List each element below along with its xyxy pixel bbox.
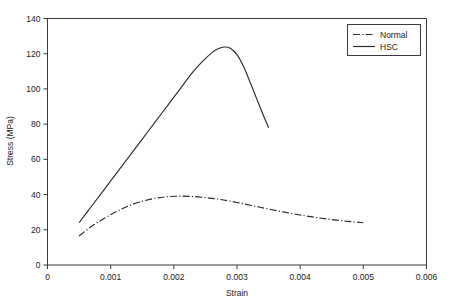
x-axis-title: Strain (226, 288, 248, 298)
x-tick-label: 0.005 (353, 272, 375, 282)
y-tick-label: 140 (26, 14, 40, 24)
chart-legend: Normal HSC (348, 25, 421, 56)
stress-strain-chart: 020406080100120140 00.0010.0020.0030.004… (0, 0, 451, 306)
x-tick-label: 0.003 (226, 272, 248, 282)
y-tick-label: 0 (36, 260, 41, 270)
x-tick-label: 0 (45, 272, 50, 282)
y-tick-label: 20 (31, 225, 41, 235)
x-tick-label: 0.002 (163, 272, 185, 282)
y-tick-label: 80 (31, 119, 41, 129)
x-tick-label: 0.006 (416, 272, 438, 282)
legend-label-normal: Normal (380, 30, 408, 40)
x-tick-label: 0.004 (290, 272, 312, 282)
legend-label-hsc: HSC (380, 42, 398, 52)
y-tick-label: 60 (31, 154, 41, 164)
chart-canvas: 020406080100120140 00.0010.0020.0030.004… (0, 0, 451, 306)
y-tick-label: 40 (31, 190, 41, 200)
y-tick-label: 100 (26, 84, 40, 94)
x-tick-label: 0.001 (100, 272, 122, 282)
y-tick-label: 120 (26, 49, 40, 59)
y-axis-title: Stress (MPa) (5, 116, 15, 166)
